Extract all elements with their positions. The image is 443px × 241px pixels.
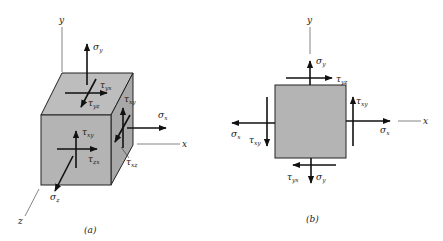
x-axis-label: x	[423, 116, 428, 126]
z-axis-label: z	[17, 216, 23, 226]
y-axis-label: y	[306, 15, 313, 25]
sigma-y-top-label: σy	[316, 56, 326, 68]
x-axis-label: x	[182, 139, 187, 149]
stress-element-diagram: y x z σy τyx τyz τxy σx τxz τxy τzx σz (…	[0, 0, 443, 241]
y-axis-label: y	[58, 15, 65, 25]
sigma-x-left-label: σx	[231, 129, 241, 140]
figure-b-caption: (b)	[306, 214, 319, 224]
tau-yx-bottom-label: τyx	[287, 172, 299, 184]
plane-element-square	[275, 85, 346, 158]
z-axis-line	[25, 189, 39, 216]
figure-b-2d-stress-element: y x σy τyz τxy σx σx τxy τyx σy (b)	[231, 15, 428, 224]
tau-xy-left-label: τxy	[249, 135, 261, 147]
sigma-x-right-label: σx	[380, 125, 390, 136]
tau-xy-right-label: τxy	[356, 96, 368, 108]
sigma-y-bottom-label: σy	[316, 172, 326, 184]
sigma-z-label: σz	[50, 192, 60, 203]
tau-yz-top-label: τyz	[336, 74, 348, 86]
figure-a-3d-stress-cube: y x z σy τyx τyz τxy σx τxz τxy τzx σz (…	[17, 15, 187, 235]
sigma-x-label: σx	[158, 110, 168, 121]
sigma-y-label: σy	[93, 42, 103, 54]
figure-a-caption: (a)	[84, 225, 97, 235]
tau-xz-label: τxz	[126, 157, 138, 168]
